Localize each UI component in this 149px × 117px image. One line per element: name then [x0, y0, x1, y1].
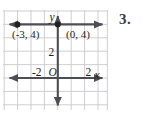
tick-label-x-negative-two: -2: [32, 66, 42, 78]
coordinate-graph-panel: (-3, 4) (0, 4) -2 2 2 y x O: [3, 10, 108, 110]
point-label-left: (-3, 4): [12, 28, 40, 41]
data-point-right: [55, 22, 61, 28]
tick-label-y-two: 2: [49, 46, 55, 58]
figure-root: (-3, 4) (0, 4) -2 2 2 y x O 3.: [0, 0, 149, 117]
x-axis-label: x: [94, 69, 101, 81]
tick-label-x-positive-two: 2: [86, 66, 92, 78]
y-axis-label: y: [49, 11, 56, 24]
coordinate-graph-svg: (-3, 4) (0, 4) -2 2 2 y x O: [3, 10, 108, 110]
data-point-left: [15, 22, 21, 28]
problem-number-label: 3.: [119, 9, 147, 31]
origin-label: O: [49, 66, 58, 78]
point-label-right: (0, 4): [66, 28, 90, 41]
